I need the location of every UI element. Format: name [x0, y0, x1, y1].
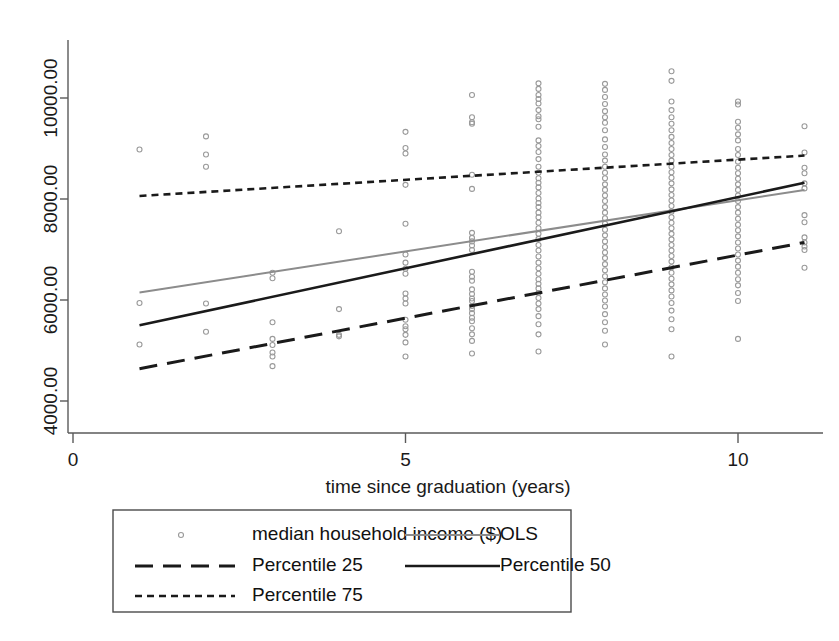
data-point	[536, 260, 541, 265]
data-point	[669, 231, 674, 236]
data-point	[736, 216, 741, 221]
data-point	[669, 69, 674, 74]
data-point	[603, 328, 608, 333]
data-point	[470, 230, 475, 235]
data-point	[536, 254, 541, 259]
data-point	[403, 354, 408, 359]
data-point	[603, 170, 608, 175]
data-point	[470, 351, 475, 356]
data-point	[669, 294, 674, 299]
data-point	[536, 301, 541, 306]
data-point	[736, 119, 741, 124]
data-point	[403, 146, 408, 151]
data-point	[669, 301, 674, 306]
data-point	[736, 283, 741, 288]
data-point	[603, 262, 608, 267]
data-point	[603, 152, 608, 157]
data-point	[470, 338, 475, 343]
data-point	[204, 301, 209, 306]
x-axis-title: time since graduation (years)	[326, 476, 571, 497]
data-point	[669, 147, 674, 152]
data-point	[403, 340, 408, 345]
data-point	[603, 102, 608, 107]
data-point	[403, 332, 408, 337]
data-point	[669, 175, 674, 180]
chart-legend: median household income ($)OLSPercentile…	[113, 510, 611, 612]
data-point	[669, 204, 674, 209]
data-point	[603, 187, 608, 192]
data-point	[603, 199, 608, 204]
data-point	[403, 129, 408, 134]
data-point	[536, 157, 541, 162]
data-point	[736, 246, 741, 251]
data-point	[736, 147, 741, 152]
data-point	[470, 332, 475, 337]
data-point	[802, 165, 807, 170]
data-point	[403, 260, 408, 265]
data-point	[736, 270, 741, 275]
y-axis-ticks: 4000.006000.008000.0010000.00	[40, 58, 68, 435]
legend-label: Percentile 25	[252, 554, 363, 575]
legend-label: Percentile 50	[500, 554, 611, 575]
data-point	[603, 320, 608, 325]
data-points-layer	[137, 69, 807, 369]
data-point	[669, 108, 674, 113]
data-point	[603, 81, 608, 86]
data-point	[736, 277, 741, 282]
data-point	[270, 336, 275, 341]
data-point	[603, 274, 608, 279]
data-point	[669, 134, 674, 139]
data-point	[736, 252, 741, 257]
data-point	[736, 182, 741, 187]
data-point	[736, 336, 741, 341]
data-point	[603, 109, 608, 114]
data-point	[736, 264, 741, 269]
data-point	[603, 304, 608, 309]
data-point	[204, 152, 209, 157]
data-point	[403, 301, 408, 306]
x-axis-ticks: 0510	[68, 433, 749, 470]
data-point	[337, 307, 342, 312]
data-point	[204, 164, 209, 169]
data-point	[669, 282, 674, 287]
data-point	[536, 150, 541, 155]
data-point	[736, 240, 741, 245]
data-point	[536, 220, 541, 225]
data-point	[603, 210, 608, 215]
data-point	[603, 244, 608, 249]
data-point	[470, 269, 475, 274]
fit-line-percentile-25	[140, 242, 805, 368]
y-tick-label: 8000.00	[40, 165, 61, 234]
data-point	[669, 259, 674, 264]
data-point	[403, 296, 408, 301]
data-point	[669, 226, 674, 231]
data-point	[669, 128, 674, 133]
data-point	[137, 301, 142, 306]
data-point	[470, 319, 475, 324]
data-point	[536, 314, 541, 319]
chart-figure: 4000.006000.008000.0010000.00 0510 time …	[0, 0, 839, 641]
data-point	[536, 307, 541, 312]
data-point	[536, 124, 541, 129]
x-tick-label: 10	[727, 449, 748, 470]
data-point	[736, 138, 741, 143]
data-point	[736, 171, 741, 176]
data-point	[137, 342, 142, 347]
data-point	[536, 143, 541, 148]
data-point	[603, 193, 608, 198]
data-point	[603, 137, 608, 142]
data-point	[470, 186, 475, 191]
legend-label: Percentile 75	[252, 584, 363, 605]
data-point	[603, 292, 608, 297]
legend-label: median household income ($)	[252, 523, 502, 544]
data-point	[802, 235, 807, 240]
data-point	[204, 134, 209, 139]
data-point	[603, 268, 608, 273]
data-point	[736, 228, 741, 233]
data-point	[536, 86, 541, 91]
data-point	[270, 276, 275, 281]
data-point	[137, 147, 142, 152]
data-point	[403, 271, 408, 276]
data-point	[603, 286, 608, 291]
scatter-plot-svg: 4000.006000.008000.0010000.00 0510 time …	[0, 0, 839, 641]
